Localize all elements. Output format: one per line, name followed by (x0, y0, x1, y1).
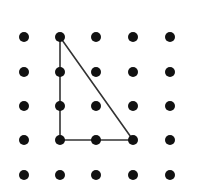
triangle-shape (60, 37, 133, 140)
grid-dot (91, 170, 101, 180)
grid-dot (19, 135, 29, 145)
grid-dot (55, 67, 65, 77)
grid-dot (55, 101, 65, 111)
grid-dot (128, 170, 138, 180)
grid-dot (55, 135, 65, 145)
dot-grid (19, 32, 175, 180)
grid-dot (165, 101, 175, 111)
grid-dot (19, 101, 29, 111)
grid-dot (165, 135, 175, 145)
grid-dot (128, 67, 138, 77)
grid-dot (19, 67, 29, 77)
grid-dot (19, 32, 29, 42)
grid-dot (165, 67, 175, 77)
grid-dot (128, 101, 138, 111)
grid-dot (91, 135, 101, 145)
grid-dot (165, 170, 175, 180)
grid-dot (128, 32, 138, 42)
grid-dot (19, 170, 29, 180)
grid-dot (128, 135, 138, 145)
grid-dot (55, 170, 65, 180)
grid-dot (165, 32, 175, 42)
dot-grid-diagram (0, 0, 201, 191)
grid-dot (91, 32, 101, 42)
grid-dot (91, 101, 101, 111)
grid-dot (91, 67, 101, 77)
triangle-outline (60, 37, 133, 140)
grid-dot (55, 32, 65, 42)
